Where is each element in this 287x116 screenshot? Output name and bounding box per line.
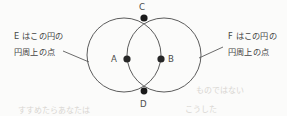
annotation-right: F はこの円の 円周上の点 xyxy=(228,29,277,60)
annotation-left-line1: E はこの円の xyxy=(14,29,63,45)
leader-line-left xyxy=(63,51,89,62)
annotation-right-line2: 円周上の点 xyxy=(228,45,277,61)
point-dot-c xyxy=(140,14,147,21)
scan-artifact-text: すすめたらあなたは xyxy=(18,104,90,115)
point-label-a: A xyxy=(111,54,117,64)
point-label-b: B xyxy=(168,54,174,64)
scan-artifact-text: ものではない xyxy=(196,84,244,95)
annotation-left: E はこの円の 円周上の点 xyxy=(14,29,63,60)
figure-container: E はこの円の 円周上の点 F はこの円の 円周上の点 A B C D すすめた… xyxy=(0,0,287,116)
point-dot-b xyxy=(157,55,164,62)
annotation-left-line2: 円周上の点 xyxy=(14,45,63,61)
right-circle xyxy=(127,18,201,92)
annotation-right-line1: F はこの円の xyxy=(228,29,277,45)
leader-line-right xyxy=(199,47,223,58)
point-label-c: C xyxy=(139,2,145,12)
point-dot-a xyxy=(123,55,130,62)
point-label-d: D xyxy=(140,99,147,109)
left-circle xyxy=(87,18,161,92)
point-dot-d xyxy=(141,88,148,95)
scan-artifact-text: こうした xyxy=(185,103,217,114)
